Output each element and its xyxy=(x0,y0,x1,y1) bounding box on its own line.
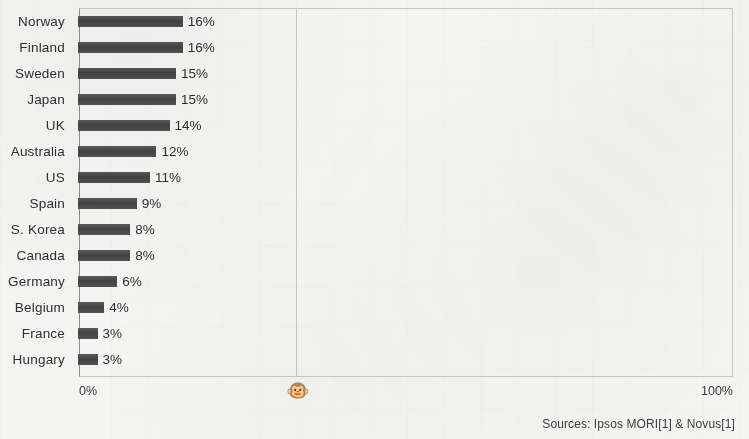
bar-category-label: Hungary xyxy=(0,352,72,367)
bar-row: Norway16% xyxy=(0,8,749,34)
sources-note: Sources: Ipsos MORI[1] & Novus[1] xyxy=(542,417,735,431)
monkey-face-icon: 🐵 xyxy=(286,381,310,400)
bar-track: 15% xyxy=(72,86,749,112)
bar-category-label: Finland xyxy=(0,40,72,55)
bar-track: 14% xyxy=(72,112,749,138)
bar xyxy=(78,42,183,53)
bar-category-label: Canada xyxy=(0,248,72,263)
bar-track: 8% xyxy=(72,216,749,242)
bar-value-label: 9% xyxy=(142,196,162,211)
bar-track: 4% xyxy=(72,294,749,320)
bar xyxy=(78,94,176,105)
bar xyxy=(78,146,156,157)
bar-rows-container: Norway16%Finland16%Sweden15%Japan15%UK14… xyxy=(0,8,749,372)
bar-track: 9% xyxy=(72,190,749,216)
x-axis-tick-max: 100% xyxy=(701,384,733,398)
bar-value-label: 15% xyxy=(181,92,208,107)
bar xyxy=(78,68,176,79)
bar-track: 12% xyxy=(72,138,749,164)
bar-value-label: 12% xyxy=(161,144,188,159)
bar-track: 3% xyxy=(72,346,749,372)
bar-row: Japan15% xyxy=(0,86,749,112)
bar-category-label: Japan xyxy=(0,92,72,107)
bar-value-label: 11% xyxy=(155,170,181,185)
bar xyxy=(78,354,98,365)
bar-value-label: 8% xyxy=(135,248,155,263)
bar xyxy=(78,198,137,209)
bar-value-label: 8% xyxy=(135,222,155,237)
bar xyxy=(78,120,170,131)
x-axis-tick-min: 0% xyxy=(79,384,97,398)
bar-category-label: Germany xyxy=(0,274,72,289)
bar xyxy=(78,16,183,27)
bar-row: Australia12% xyxy=(0,138,749,164)
bar-track: 3% xyxy=(72,320,749,346)
bar-track: 8% xyxy=(72,242,749,268)
bar xyxy=(78,224,130,235)
bar-track: 6% xyxy=(72,268,749,294)
bar-value-label: 6% xyxy=(122,274,142,289)
bar xyxy=(78,302,104,313)
bar-category-label: Spain xyxy=(0,196,72,211)
bar-row: Germany6% xyxy=(0,268,749,294)
bar-row: UK14% xyxy=(0,112,749,138)
bar-row: Sweden15% xyxy=(0,60,749,86)
bar-value-label: 4% xyxy=(109,300,129,315)
bar xyxy=(78,250,130,261)
bar-value-label: 3% xyxy=(103,352,123,367)
bar-value-label: 3% xyxy=(103,326,123,341)
bar-row: France3% xyxy=(0,320,749,346)
bar-row: Belgium4% xyxy=(0,294,749,320)
bar-value-label: 16% xyxy=(188,40,215,55)
bar-category-label: Australia xyxy=(0,144,72,159)
bar-category-label: S. Korea xyxy=(0,222,72,237)
bar-row: Hungary3% xyxy=(0,346,749,372)
bar-category-label: US xyxy=(0,170,72,185)
bar-row: Canada8% xyxy=(0,242,749,268)
bar-track: 16% xyxy=(72,34,749,60)
bar-value-label: 15% xyxy=(181,66,208,81)
bar-value-label: 16% xyxy=(188,14,215,29)
bar-category-label: Norway xyxy=(0,14,72,29)
bar xyxy=(78,276,117,287)
bar-track: 16% xyxy=(72,8,749,34)
bar-category-label: Sweden xyxy=(0,66,72,81)
bar xyxy=(78,328,98,339)
x-axis: 0% 100% xyxy=(79,384,733,402)
bar-row: S. Korea8% xyxy=(0,216,749,242)
bar-track: 11% xyxy=(72,164,749,190)
bar-category-label: France xyxy=(0,326,72,341)
bar-track: 15% xyxy=(72,60,749,86)
bar-value-label: 14% xyxy=(175,118,202,133)
bar-category-label: UK xyxy=(0,118,72,133)
bar-row: US11% xyxy=(0,164,749,190)
bar-category-label: Belgium xyxy=(0,300,72,315)
horizontal-bar-chart: Norway16%Finland16%Sweden15%Japan15%UK14… xyxy=(0,0,749,439)
bar xyxy=(78,172,150,183)
bar-row: Finland16% xyxy=(0,34,749,60)
bar-row: Spain9% xyxy=(0,190,749,216)
